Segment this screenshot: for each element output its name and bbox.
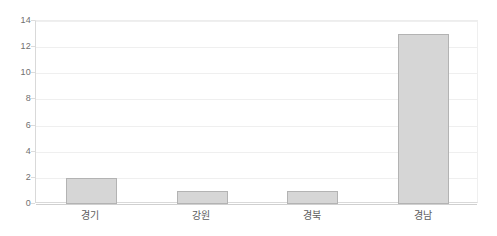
x-tick-label: 경북 (303, 210, 321, 222)
y-tick-label: 4 (3, 147, 31, 156)
gridline-0 (36, 204, 477, 205)
y-tick-label: 2 (3, 173, 31, 182)
x-tick-label: 경남 (414, 210, 432, 222)
y-tick-label: 10 (3, 68, 31, 77)
y-tick-label: 8 (3, 94, 31, 103)
y-tick-mark (31, 203, 35, 204)
plot-area (35, 20, 478, 203)
x-tick-label: 강원 (192, 210, 210, 222)
bar (398, 34, 449, 204)
gridline-14 (36, 21, 477, 22)
y-axis: 02468101214 (0, 20, 31, 203)
x-tick-label: 경기 (81, 210, 99, 222)
bar (66, 178, 117, 204)
y-tick-label: 6 (3, 121, 31, 130)
y-tick-label: 12 (3, 42, 31, 51)
y-tick-label: 14 (3, 16, 31, 25)
bar (287, 191, 338, 204)
bar (177, 191, 228, 204)
bar-chart: 02468101214 경기강원경북경남 (0, 0, 497, 236)
y-tick-label: 0 (3, 199, 31, 208)
